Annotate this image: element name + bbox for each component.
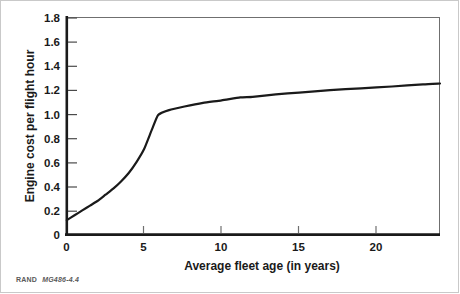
x-axis-title: Average fleet age (in years) xyxy=(184,259,340,273)
x-tick-label: 20 xyxy=(370,241,383,253)
figure-credit: RAND MG486-4.4 xyxy=(16,276,79,283)
x-tick-label: 0 xyxy=(63,241,69,253)
y-tick-label: 1.2 xyxy=(44,84,60,96)
y-tick-label: 1.4 xyxy=(44,60,61,72)
chart-figure: 1.8 1.6 1.4 1.2 1.0 0.8 0.6 0.4 0.2 0 0 … xyxy=(0,0,460,294)
x-tick-label: 5 xyxy=(140,241,147,253)
y-axis-tick-labels: 1.8 1.6 1.4 1.2 1.0 0.8 0.6 0.4 0.2 0 xyxy=(44,12,61,241)
figure-credit-id: MG486-4.4 xyxy=(42,276,79,283)
y-tick-label: 1.6 xyxy=(44,36,60,48)
figure-credit-prefix: RAND xyxy=(16,276,37,283)
x-tick-label: 10 xyxy=(215,241,228,253)
y-tick-label: 0.6 xyxy=(44,157,60,169)
plot-area-background xyxy=(66,17,440,235)
line-chart: 1.8 1.6 1.4 1.2 1.0 0.8 0.6 0.4 0.2 0 0 … xyxy=(0,0,460,294)
y-axis-title: Engine cost per flight hour xyxy=(23,49,37,202)
y-tick-label: 0.4 xyxy=(44,181,61,193)
x-tick-label: 15 xyxy=(292,241,305,253)
y-tick-label: 1.8 xyxy=(44,12,61,24)
y-tick-label: 1.0 xyxy=(44,109,60,121)
x-axis-tick-labels: 0 5 10 15 20 xyxy=(63,241,382,253)
y-tick-label: 0 xyxy=(54,229,60,241)
y-tick-label: 0.2 xyxy=(44,205,60,217)
y-tick-label: 0.8 xyxy=(44,133,61,145)
